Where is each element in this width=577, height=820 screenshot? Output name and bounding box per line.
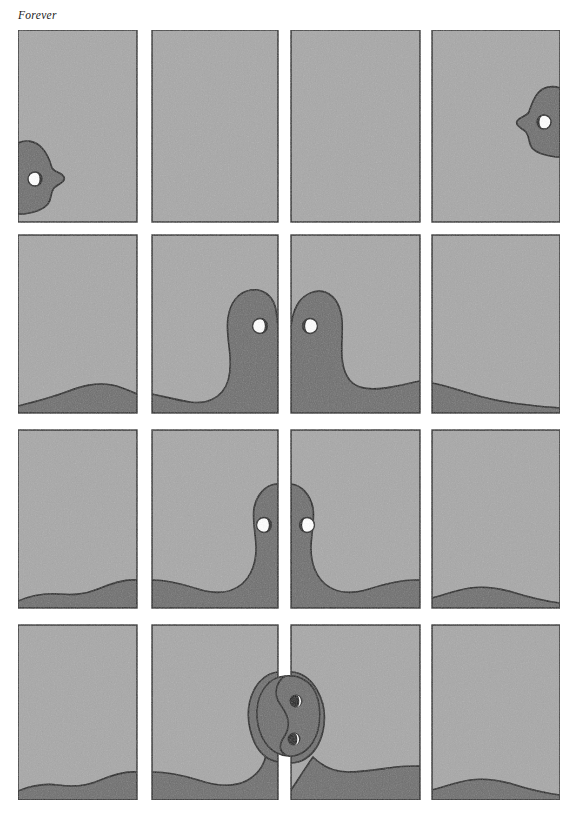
panel-2-4 <box>432 235 560 413</box>
comic-artwork <box>0 0 577 820</box>
panel-4-4 <box>432 625 560 800</box>
row-2 <box>18 235 560 413</box>
panel-1-2 <box>152 30 278 222</box>
row-3 <box>18 430 560 608</box>
comic-strip: Forever <box>0 0 577 820</box>
row-4 <box>18 625 560 800</box>
panel-3-4 <box>432 430 560 608</box>
panel-1-3 <box>291 30 420 222</box>
yinyang-core <box>257 676 320 756</box>
row-1 <box>18 30 560 222</box>
